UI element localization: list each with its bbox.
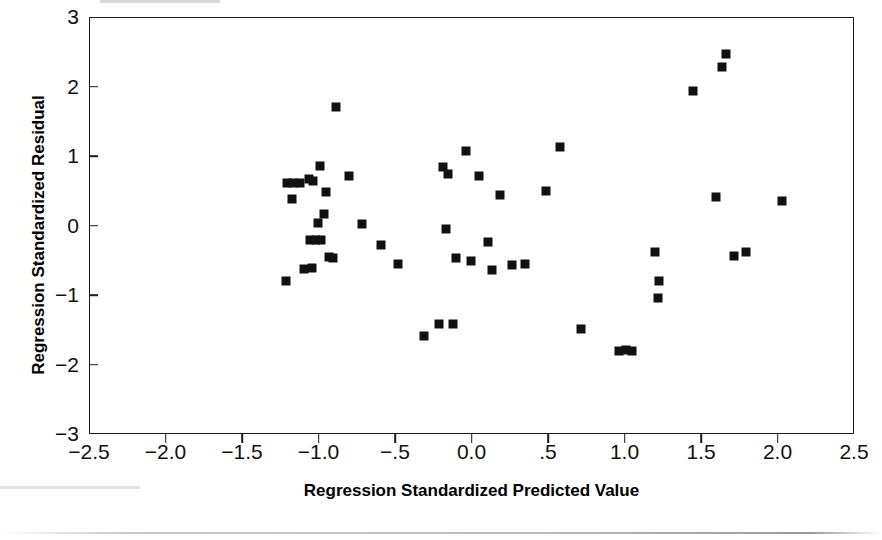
- data-point: [653, 294, 662, 303]
- x-axis-tick-label: −2.0: [145, 440, 186, 464]
- data-point: [627, 346, 636, 355]
- data-point: [393, 260, 402, 269]
- data-point: [320, 209, 329, 218]
- data-point: [295, 179, 304, 188]
- data-point: [444, 169, 453, 178]
- data-point: [344, 171, 353, 180]
- data-point: [313, 219, 322, 228]
- data-point: [742, 247, 751, 256]
- data-point: [520, 260, 529, 269]
- data-point: [577, 324, 586, 333]
- data-point: [287, 194, 296, 203]
- data-point: [722, 50, 731, 59]
- data-point: [321, 187, 330, 196]
- scan-artifact-bottom: [0, 532, 882, 534]
- data-point: [483, 238, 492, 247]
- y-axis-tick-label: 3: [67, 5, 79, 29]
- data-point: [442, 225, 451, 234]
- data-point: [309, 176, 318, 185]
- y-axis-tick: [89, 225, 98, 227]
- data-point: [730, 251, 739, 260]
- x-axis-tick-label: 2.5: [839, 440, 868, 464]
- data-point: [508, 260, 517, 269]
- data-point: [496, 191, 505, 200]
- data-point: [541, 187, 550, 196]
- data-point: [317, 236, 326, 245]
- scan-artifact-top: [100, 0, 220, 3]
- data-point: [376, 241, 385, 250]
- x-axis-tick-label: 2.0: [763, 440, 792, 464]
- data-points-layer: [90, 18, 853, 433]
- data-point: [688, 86, 697, 95]
- x-axis-tick-label: −1.0: [298, 440, 339, 464]
- x-axis-tick-label: −.5: [380, 440, 410, 464]
- data-point: [332, 102, 341, 111]
- data-point: [434, 320, 443, 329]
- data-point: [329, 254, 338, 263]
- x-axis-tick-label: 0.0: [457, 440, 486, 464]
- data-point: [474, 172, 483, 181]
- data-point: [307, 263, 316, 272]
- x-axis-tick-label: 1.5: [686, 440, 715, 464]
- data-point: [419, 332, 428, 341]
- data-point: [555, 142, 564, 151]
- data-point: [488, 265, 497, 274]
- plot-area: [89, 17, 854, 434]
- data-point: [358, 220, 367, 229]
- y-axis-tick-label: 2: [67, 75, 79, 99]
- y-axis-tick: [89, 294, 98, 296]
- y-axis-tick-label: −2: [55, 353, 79, 377]
- data-point: [462, 147, 471, 156]
- data-point: [281, 276, 290, 285]
- y-axis-title: Regression Standardized Residual: [29, 25, 49, 445]
- data-point: [777, 196, 786, 205]
- y-axis-tick-label: 1: [67, 144, 79, 168]
- data-point: [655, 277, 664, 286]
- y-axis-tick: [89, 86, 98, 88]
- data-point: [315, 162, 324, 171]
- x-axis-tick-label: .5: [539, 440, 557, 464]
- y-axis-tick: [89, 364, 98, 366]
- x-axis-title: Regression Standardized Predicted Value: [89, 481, 854, 501]
- x-axis-tick-label: 1.0: [610, 440, 639, 464]
- x-axis-tick-label: −1.5: [221, 440, 262, 464]
- data-point: [717, 63, 726, 72]
- y-axis-tick: [89, 155, 98, 157]
- y-axis-tick-label: 0: [67, 214, 79, 238]
- data-point: [451, 254, 460, 263]
- scatterplot-figure: 3210−1−2−3 −2.5−2.0−1.5−1.0−.50.0.51.01.…: [0, 0, 882, 540]
- data-point: [466, 256, 475, 265]
- x-axis-tick-label: −2.5: [68, 440, 109, 464]
- data-point: [650, 248, 659, 257]
- data-point: [448, 319, 457, 328]
- y-axis-tick-label: −1: [55, 283, 79, 307]
- data-point: [711, 192, 720, 201]
